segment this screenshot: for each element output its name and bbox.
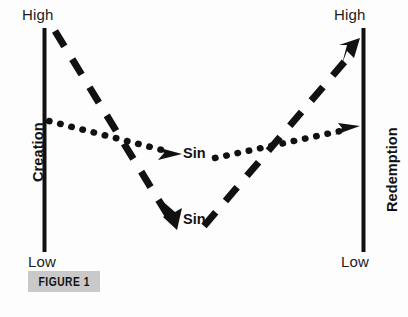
dashed-descending-arrowhead bbox=[160, 199, 182, 230]
left-axis-low-label: Low bbox=[28, 253, 56, 270]
sin-label-upper: Sin bbox=[183, 145, 206, 161]
right-axis-name: Redemption bbox=[384, 127, 400, 212]
right-axis-bar bbox=[362, 28, 366, 252]
right-axis-high-label: High bbox=[334, 6, 366, 23]
right-axis-low-label: Low bbox=[341, 253, 369, 270]
dashed-ascending-line bbox=[204, 53, 352, 226]
sin-label-lower: Sin bbox=[183, 211, 206, 227]
dotted-ascending-line bbox=[215, 130, 345, 158]
figure-caption-badge: FIGURE 1 bbox=[28, 271, 100, 292]
figure-container: High Low High Low Creation Redemption Si… bbox=[0, 0, 408, 317]
figure-caption-text: FIGURE 1 bbox=[38, 275, 89, 289]
dotted-descending-arrowhead bbox=[158, 148, 182, 160]
left-axis-high-label: High bbox=[22, 6, 54, 23]
left-axis-name: Creation bbox=[30, 122, 46, 182]
